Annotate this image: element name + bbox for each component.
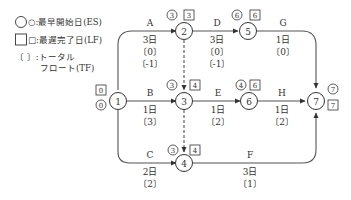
activity-f-name: F bbox=[247, 150, 253, 160]
legend-tf-label: 〔 〕:トータル bbox=[15, 52, 75, 62]
activity-g-name: G bbox=[279, 18, 286, 28]
activity-e-duration: 1日 bbox=[211, 105, 226, 115]
svg-text:5: 5 bbox=[245, 27, 251, 37]
activity-a-duration: 3日 bbox=[143, 35, 158, 45]
svg-text:3: 3 bbox=[170, 82, 174, 90]
legend-es-label: ○:最早開始日(ES) bbox=[28, 17, 102, 27]
activity-h-tf: 〔2〕 bbox=[270, 117, 294, 127]
activity-g-tf: 〔0〕 bbox=[271, 47, 295, 57]
svg-text:6: 6 bbox=[235, 12, 240, 20]
legend: ○:最早開始日(ES) □:最遅完了日(LF) 〔 〕:トータル フロート(TF… bbox=[15, 17, 102, 74]
activity-c-name: C bbox=[147, 150, 154, 160]
legend-lf-label: □:最遅完了日(LF) bbox=[28, 35, 102, 45]
activity-d-extra: 〔-1〕 bbox=[204, 59, 231, 69]
legend-circle-icon bbox=[16, 17, 27, 28]
activity-d-name: D bbox=[213, 18, 220, 28]
activity-b-tf: 〔3〕 bbox=[138, 117, 162, 127]
activity-c-tf: 〔2〕 bbox=[138, 179, 162, 189]
activity-h-name: H bbox=[278, 88, 286, 98]
svg-text:2: 2 bbox=[181, 27, 187, 37]
svg-text:7: 7 bbox=[331, 86, 335, 94]
activity-a-name: A bbox=[146, 18, 154, 28]
activity-e-tf: 〔2〕 bbox=[206, 117, 230, 127]
svg-text:3: 3 bbox=[187, 12, 191, 20]
svg-text:3: 3 bbox=[181, 97, 187, 107]
activity-d-duration: 3日 bbox=[210, 35, 225, 45]
activity-g-duration: 1日 bbox=[276, 35, 291, 45]
activity-e-name: E bbox=[215, 88, 222, 98]
arrow-diagram: ○:最早開始日(ES) □:最遅完了日(LF) 〔 〕:トータル フロート(TF… bbox=[0, 0, 351, 200]
legend-square-icon bbox=[16, 34, 27, 45]
node-1: 1 bbox=[110, 93, 127, 110]
activity-h-duration: 1日 bbox=[275, 105, 290, 115]
svg-text:3: 3 bbox=[170, 12, 174, 20]
node-7: 7 bbox=[308, 93, 325, 110]
node-2: 2 bbox=[176, 23, 193, 40]
svg-text:1: 1 bbox=[115, 97, 121, 107]
node-4: 4 bbox=[176, 155, 193, 172]
activity-a-extra: 〔-1〕 bbox=[137, 59, 164, 69]
node-3: 3 bbox=[176, 93, 193, 110]
node-6: 6 bbox=[241, 93, 258, 110]
activity-f-duration: 3日 bbox=[243, 167, 258, 177]
activity-f-tf: 〔1〕 bbox=[238, 179, 262, 189]
svg-text:6: 6 bbox=[253, 82, 258, 90]
svg-text:6: 6 bbox=[253, 12, 258, 20]
svg-text:4: 4 bbox=[193, 147, 198, 155]
svg-text:0: 0 bbox=[99, 102, 103, 110]
svg-text:7: 7 bbox=[313, 97, 319, 107]
activity-b-name: B bbox=[147, 88, 154, 98]
svg-text:4: 4 bbox=[193, 82, 198, 90]
node-5: 5 bbox=[240, 23, 257, 40]
svg-text:4: 4 bbox=[181, 159, 187, 169]
svg-text:3: 3 bbox=[171, 147, 175, 155]
svg-text:7: 7 bbox=[331, 102, 335, 110]
svg-text:4: 4 bbox=[239, 82, 244, 90]
activity-b-duration: 1日 bbox=[143, 105, 158, 115]
activity-c-duration: 2日 bbox=[143, 167, 158, 177]
activity-d-tf: 〔0〕 bbox=[205, 47, 229, 57]
activity-a-tf: 〔0〕 bbox=[138, 47, 162, 57]
svg-text:6: 6 bbox=[246, 97, 252, 107]
svg-text:0: 0 bbox=[99, 87, 103, 95]
legend-tf-label-2: フロート(TF) bbox=[40, 63, 94, 73]
